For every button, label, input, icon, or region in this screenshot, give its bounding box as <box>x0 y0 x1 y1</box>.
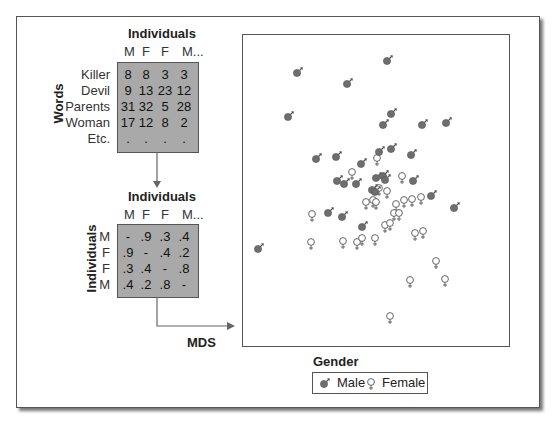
female-point <box>412 230 419 241</box>
male-point <box>358 221 367 230</box>
male-point <box>450 202 459 211</box>
legend: Male Female <box>312 372 428 394</box>
male-icon <box>320 378 329 387</box>
female-point <box>309 211 316 222</box>
male-point <box>332 151 341 160</box>
male-point <box>427 190 436 199</box>
male-point <box>383 55 392 64</box>
male-point <box>357 158 366 167</box>
male-point <box>324 207 333 216</box>
male-point <box>352 178 361 187</box>
female-icon <box>368 379 375 390</box>
male-point <box>284 111 293 120</box>
female-point <box>340 238 347 249</box>
male-point <box>343 78 352 87</box>
male-point <box>254 243 263 252</box>
female-point <box>442 276 449 287</box>
male-point <box>387 108 396 117</box>
male-point <box>418 119 427 128</box>
female-point <box>372 235 379 246</box>
legend-title: Gender <box>313 354 359 369</box>
male-point <box>312 153 321 162</box>
male-point <box>375 146 384 155</box>
female-point <box>396 210 403 221</box>
female-point <box>407 277 414 288</box>
male-point <box>442 117 451 126</box>
female-point <box>384 188 391 199</box>
female-point <box>433 258 440 269</box>
female-point <box>399 173 406 184</box>
female-point <box>308 239 315 250</box>
legend-female-label: Female <box>382 375 425 390</box>
female-point <box>409 196 416 207</box>
female-point <box>418 194 425 205</box>
scatter-points <box>0 0 557 423</box>
male-point <box>409 175 418 184</box>
female-point <box>374 155 381 166</box>
female-point <box>387 313 394 324</box>
female-point <box>363 199 370 210</box>
female-point <box>373 199 380 210</box>
female-point <box>420 228 427 239</box>
male-point <box>293 67 302 76</box>
male-point <box>379 119 388 128</box>
female-point <box>387 220 394 231</box>
male-point <box>340 178 349 187</box>
legend-male-label: Male <box>337 375 365 390</box>
male-point <box>407 149 416 158</box>
male-point <box>387 143 396 152</box>
male-point <box>338 211 347 220</box>
female-point <box>401 197 408 208</box>
